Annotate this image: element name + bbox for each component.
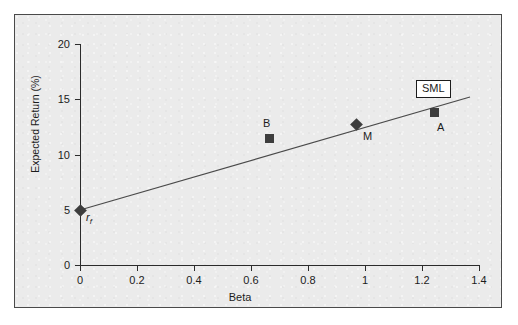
sml-line-svg (0, 0, 518, 325)
label-m: M (363, 130, 372, 142)
chart-page: 20 15 10 5 0 0 0.2 0.4 0.6 0.8 1 1.2 1.4… (0, 0, 518, 325)
marker-b (265, 134, 274, 143)
sml-line (80, 97, 470, 210)
marker-a (430, 108, 439, 117)
label-b: B (263, 117, 270, 129)
plot-area: 20 15 10 5 0 0 0.2 0.4 0.6 0.8 1 1.2 1.4… (0, 0, 518, 325)
label-a: A (437, 121, 444, 133)
label-rf: rf (86, 211, 92, 226)
label-rf-sub: f (90, 217, 92, 226)
sml-annotation-box: SML (416, 80, 451, 98)
